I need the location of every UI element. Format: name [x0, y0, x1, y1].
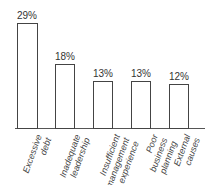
value-label: 13% — [126, 68, 156, 79]
value-label: 29% — [12, 10, 42, 21]
value-label: 12% — [164, 71, 194, 82]
bar-chart: 29% 18% 13% 13% 12% Excessive debt Inade… — [0, 0, 215, 185]
value-label: 18% — [50, 51, 80, 62]
bar-external-causes — [169, 84, 189, 129]
category-label: External causes — [172, 133, 202, 171]
category-label: Excessive debt — [21, 133, 54, 178]
category-label: Poor business planning — [139, 133, 179, 177]
bar-poor-business-planning — [131, 81, 151, 129]
category-label: Inadequate leadership — [58, 133, 92, 182]
bar-inadequate-leadership — [55, 64, 75, 129]
category-label: Insufficient management experience — [95, 133, 141, 185]
value-label: 13% — [88, 68, 118, 79]
bar-insufficient-management-experience — [93, 81, 113, 129]
bar-excessive-debt — [17, 23, 38, 129]
